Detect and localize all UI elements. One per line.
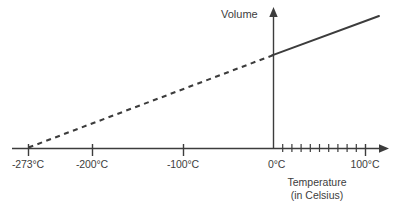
x-axis bbox=[12, 144, 389, 152]
x-axis-title-line1: Temperature bbox=[288, 176, 347, 188]
x-tick-label-neg273: -273°C bbox=[12, 158, 44, 170]
x-tick-label-neg100: -100°C bbox=[167, 158, 199, 170]
x-axis-title-line2: (in Celsius) bbox=[288, 189, 347, 202]
x-axis-arrowhead bbox=[379, 144, 389, 152]
x-tick-label-100: 100°C bbox=[351, 158, 380, 170]
measured-solid-line bbox=[272, 16, 379, 55]
volume-vs-temperature-chart: Volume -273°C -200°C -100°C 0°C 100°C Te… bbox=[0, 0, 394, 211]
x-axis-major-ticks bbox=[29, 144, 366, 156]
x-tick-label-zero: 0°C bbox=[268, 158, 285, 170]
y-axis-arrowhead bbox=[269, 7, 277, 17]
y-axis-title: Volume bbox=[221, 8, 258, 20]
x-tick-label-neg200: -200°C bbox=[76, 158, 108, 170]
extrapolated-dashed-line bbox=[29, 55, 274, 148]
y-axis bbox=[269, 7, 277, 149]
x-axis-title: Temperature (in Celsius) bbox=[288, 176, 347, 202]
